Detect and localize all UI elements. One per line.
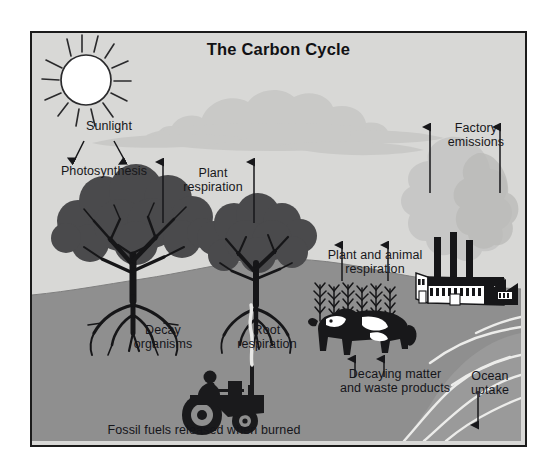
label-plant-respiration: Plant respiration bbox=[170, 166, 256, 194]
label-decaying-matter: Decaying matter and waste products bbox=[320, 367, 470, 395]
figure-canvas: The Carbon Cycle Sunlight Photosynthesis… bbox=[0, 0, 552, 475]
label-sunlight: Sunlight bbox=[63, 119, 155, 133]
label-root-respiration: Root respiration bbox=[224, 323, 310, 351]
page-title: The Carbon Cycle bbox=[32, 40, 525, 59]
label-factory-emissions: Factory emissions bbox=[430, 121, 522, 149]
carbon-cycle-figure: The Carbon Cycle Sunlight Photosynthesis… bbox=[30, 31, 527, 447]
label-fossil-fuels: Fossil fuels released when burned bbox=[84, 423, 324, 437]
label-plant-and-animal-respiration: Plant and animal respiration bbox=[314, 248, 436, 276]
label-ocean-uptake: Ocean uptake bbox=[450, 369, 527, 397]
label-photosynthesis: Photosynthesis bbox=[38, 164, 170, 178]
label-decay-organisms: Decay organisms bbox=[118, 323, 208, 351]
